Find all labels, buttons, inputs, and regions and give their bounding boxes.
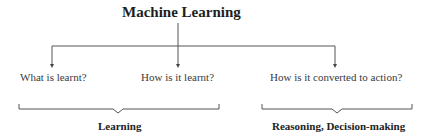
group-reasoning-label: Reasoning, Decision-making (272, 121, 405, 132)
reasoning-brace (262, 104, 412, 113)
branch-what-is-learnt: What is learnt? (20, 72, 87, 83)
branch-how-is-it-learnt: How is it learnt? (141, 72, 214, 83)
diagram-title: Machine Learning (122, 5, 241, 20)
group-learning-label: Learning (98, 121, 141, 132)
connector-lines (0, 0, 429, 139)
branch-converted-to-action: How is it converted to action? (270, 72, 402, 83)
learning-brace (19, 104, 219, 113)
